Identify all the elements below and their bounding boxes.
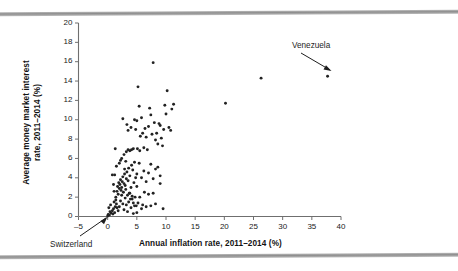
y-tick-label: 16	[49, 56, 73, 65]
data-point	[114, 199, 117, 202]
data-point	[147, 172, 150, 175]
annotation-label-switzerland: Switzerland	[50, 240, 92, 249]
data-point	[130, 164, 133, 167]
data-point	[128, 174, 131, 177]
data-point	[139, 135, 142, 138]
data-point	[146, 148, 149, 151]
data-point	[170, 108, 173, 111]
data-point	[125, 123, 128, 126]
data-point	[132, 212, 135, 215]
y-tick-label: 12	[49, 95, 73, 104]
data-point	[123, 168, 126, 171]
data-point	[132, 202, 135, 205]
data-point	[119, 200, 122, 203]
data-point	[115, 165, 118, 168]
data-point	[123, 153, 126, 156]
data-point	[149, 163, 152, 166]
data-point	[119, 159, 122, 162]
data-point	[140, 176, 143, 179]
data-point	[143, 191, 146, 194]
data-point	[144, 127, 147, 130]
data-point	[118, 205, 121, 208]
data-point	[149, 204, 152, 207]
y-axis-title-line1: Average money market interest	[22, 48, 33, 198]
x-tick-label: 25	[242, 222, 266, 231]
data-point	[159, 182, 162, 185]
x-tick-label: 35	[300, 222, 324, 231]
data-point	[127, 179, 130, 182]
data-point	[131, 195, 134, 198]
data-point	[138, 196, 141, 199]
data-point	[145, 180, 148, 183]
data-point	[159, 124, 162, 127]
data-point	[124, 197, 127, 200]
x-tick-label: 5	[125, 222, 149, 231]
data-point	[138, 105, 141, 108]
data-point	[130, 126, 133, 129]
data-point	[140, 116, 143, 119]
data-point	[137, 85, 140, 88]
data-point	[260, 77, 263, 80]
data-point	[130, 206, 133, 209]
data-point	[156, 142, 159, 145]
scatter-chart-figure: Annual inflation rate, 2011–2014 (%) Ave…	[0, 0, 458, 271]
x-tick-label: 20	[212, 222, 236, 231]
data-point	[138, 149, 141, 152]
data-point	[128, 192, 131, 195]
data-point	[149, 113, 152, 116]
data-point	[122, 191, 125, 194]
data-point	[141, 203, 144, 206]
data-point	[111, 173, 114, 176]
data-point	[140, 207, 143, 210]
data-point	[172, 103, 175, 106]
data-point	[130, 186, 133, 189]
annotation-label-venezuela: Venezuela	[292, 41, 330, 50]
data-point	[123, 208, 126, 211]
data-point	[127, 201, 130, 204]
data-point	[162, 128, 165, 131]
y-tick-label: 2	[49, 192, 73, 201]
data-point-group	[106, 61, 329, 217]
data-point	[120, 194, 123, 197]
data-point	[145, 136, 148, 139]
data-point	[142, 146, 145, 149]
data-point	[167, 126, 170, 129]
data-point	[156, 166, 159, 169]
data-point	[136, 147, 139, 150]
data-point	[134, 176, 137, 179]
data-point	[124, 184, 127, 187]
data-point	[121, 175, 124, 178]
data-point	[326, 75, 329, 78]
data-point	[107, 206, 110, 209]
data-point	[133, 161, 136, 164]
data-point	[154, 139, 157, 142]
data-point	[141, 132, 144, 135]
data-point	[124, 160, 127, 163]
data-point	[152, 192, 155, 195]
y-tick-label: 20	[49, 18, 73, 27]
data-point	[135, 211, 138, 214]
data-point	[131, 169, 134, 172]
x-tick-label: –5	[67, 222, 91, 231]
data-point	[137, 202, 140, 205]
x-tick-label: 10	[154, 222, 178, 231]
data-point	[153, 121, 156, 124]
data-point	[161, 144, 164, 147]
y-tick-label: 8	[49, 134, 73, 143]
data-point	[113, 190, 116, 193]
data-point	[114, 147, 117, 150]
data-point	[154, 202, 157, 205]
data-point	[145, 205, 148, 208]
data-point	[123, 172, 126, 175]
x-tick-label: 30	[271, 222, 295, 231]
y-axis-title-line2: rate, 2011–2014 (%)	[32, 48, 43, 198]
data-point	[118, 162, 121, 165]
data-point	[109, 203, 112, 206]
y-tick-label: 4	[49, 172, 73, 181]
data-point	[116, 190, 119, 193]
data-point	[152, 61, 155, 64]
data-point	[224, 102, 227, 105]
data-point	[138, 162, 141, 165]
y-axis-title: Average money market interest rate, 2011…	[22, 48, 43, 198]
data-point	[162, 207, 165, 210]
